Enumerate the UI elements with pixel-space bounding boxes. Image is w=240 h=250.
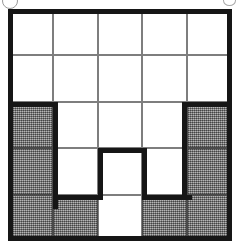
grid-cell-r3c1[interactable] (8, 102, 53, 148)
grid-cell-r3c3[interactable] (98, 102, 143, 148)
grid-cell-r5c2[interactable] (53, 195, 98, 241)
grid-cell-r2c3[interactable] (98, 55, 143, 101)
grid-cell-r2c2[interactable] (53, 55, 98, 101)
outline-seg-right-c3-r4 (142, 148, 147, 199)
grid-cell-r4c4[interactable] (142, 148, 187, 194)
outline-seg-left-c5 (182, 102, 187, 199)
scan-artifact-top-left-icon (2, 0, 18, 9)
grid-cell-r2c5[interactable] (187, 55, 232, 101)
grid-cell-r3c4[interactable] (142, 102, 187, 148)
grid-cell-r1c5[interactable] (187, 9, 232, 55)
grid-cell-r2c1[interactable] (8, 55, 53, 101)
grid-cell-r5c5[interactable] (187, 195, 232, 241)
grid-cell-r3c2[interactable] (53, 102, 98, 148)
shaded-grid-puzzle (8, 9, 232, 241)
grid-cell-r4c3[interactable] (98, 148, 143, 194)
outline-seg-left-c3-r4 (98, 148, 103, 199)
grid-cell-r1c4[interactable] (142, 9, 187, 55)
grid-cell-r4c2[interactable] (53, 148, 98, 194)
grid-cell-r1c1[interactable] (8, 9, 53, 55)
outline-seg-top-c1-r3 (8, 102, 58, 107)
grid-cell-r4c1[interactable] (8, 148, 53, 194)
grid-cell-r5c3[interactable] (98, 195, 143, 241)
grid-cell-r5c1[interactable] (8, 195, 53, 241)
grid-cell-r4c5[interactable] (187, 148, 232, 194)
grid-cell-r3c5[interactable] (187, 102, 232, 148)
grid-cell-r2c4[interactable] (142, 55, 187, 101)
grid-cell-r5c4[interactable] (142, 195, 187, 241)
grid-cell-r1c3[interactable] (98, 9, 143, 55)
outline-seg-bottom-c2-r5 (53, 195, 103, 200)
outline-seg-top-c5-r3 (182, 102, 232, 107)
scan-artifact-top-right-icon (223, 0, 236, 6)
outline-seg-top-c3-r4 (98, 148, 148, 153)
grid-cell-r1c2[interactable] (53, 9, 98, 55)
figure-page (0, 0, 240, 250)
outline-seg-right-c1 (53, 102, 58, 209)
